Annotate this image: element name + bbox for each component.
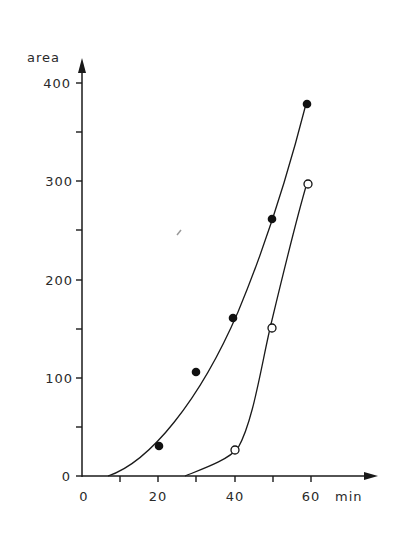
x-tick-label: 0 <box>79 489 88 504</box>
y-tick-label: 300 <box>45 174 73 189</box>
filled-series-markers <box>155 100 312 451</box>
chart: area min 0 100 200 300 400 0 20 40 60 <box>0 0 399 544</box>
open-series-curve <box>185 183 307 476</box>
data-point <box>229 314 238 323</box>
x-axis-arrow-icon <box>364 472 378 480</box>
data-point <box>268 215 277 224</box>
y-tick-label: 200 <box>45 273 73 288</box>
stray-mark <box>177 230 181 235</box>
x-axis-label: min <box>335 489 363 504</box>
data-point <box>303 100 312 109</box>
y-tick-label: 0 <box>62 469 71 484</box>
x-ticks <box>120 476 311 482</box>
y-ticks <box>76 83 82 476</box>
y-tick-label: 100 <box>45 371 73 386</box>
data-point <box>231 446 239 454</box>
data-point <box>304 180 312 188</box>
x-tick-label: 60 <box>302 489 321 504</box>
y-tick-label: 400 <box>43 76 71 91</box>
x-tick-label: 20 <box>149 489 168 504</box>
data-point <box>192 368 201 377</box>
filled-series-curve <box>108 104 306 476</box>
data-point <box>155 442 164 451</box>
y-axis-arrow-icon <box>78 58 86 73</box>
y-axis-label: area <box>27 50 60 65</box>
x-tick-label: 40 <box>226 489 245 504</box>
data-point <box>268 324 276 332</box>
